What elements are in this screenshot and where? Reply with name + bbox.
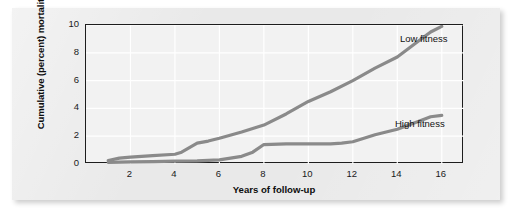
series-line-low-fitness bbox=[108, 26, 442, 160]
y-axis-label: Cumulative (percent) mortality bbox=[35, 0, 46, 146]
y-tick-label: 2 bbox=[57, 129, 79, 140]
x-tick-label: 2 bbox=[117, 168, 141, 179]
figure-container: Cumulative (percent) mortality 0246810 2… bbox=[0, 0, 524, 222]
y-tick-label: 6 bbox=[57, 74, 79, 85]
series-label-high-fitness: High fitness bbox=[395, 118, 445, 129]
series-lines bbox=[108, 26, 442, 162]
y-tick-label: 10 bbox=[57, 18, 79, 29]
x-tick-label: 8 bbox=[251, 168, 275, 179]
series-label-low-fitness: Low fitness bbox=[400, 33, 448, 44]
x-axis-label: Years of follow-up bbox=[85, 184, 463, 195]
x-tick-label: 4 bbox=[162, 168, 186, 179]
x-tick-label: 16 bbox=[429, 168, 453, 179]
x-tick-label: 12 bbox=[340, 168, 364, 179]
x-tick-label: 14 bbox=[384, 168, 408, 179]
plot-area bbox=[85, 24, 463, 163]
y-tick-label: 4 bbox=[57, 101, 79, 112]
y-tick-label: 8 bbox=[57, 46, 79, 57]
x-tick-label: 10 bbox=[295, 168, 319, 179]
x-tick-label: 6 bbox=[206, 168, 230, 179]
y-tick-label: 0 bbox=[57, 157, 79, 168]
chart-svg bbox=[86, 25, 464, 164]
